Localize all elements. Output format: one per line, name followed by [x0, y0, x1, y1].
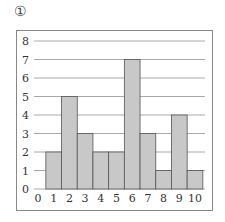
y-tick-label: 2	[22, 146, 29, 159]
histogram-chart: 012345678012345678910	[0, 0, 225, 222]
histogram-bar	[109, 152, 125, 189]
y-tick-label: 8	[22, 35, 29, 48]
x-tick-label: 7	[144, 192, 151, 205]
x-tick-label: 9	[176, 192, 183, 205]
histogram-bar	[62, 97, 78, 190]
histogram-bar	[156, 171, 172, 190]
y-tick-label: 1	[22, 165, 29, 178]
x-tick-label: 3	[82, 192, 89, 205]
histogram-bar	[171, 115, 187, 189]
x-tick-label: 5	[113, 192, 120, 205]
y-tick-label: 3	[22, 128, 29, 141]
histogram-bar	[140, 134, 156, 190]
histogram-bar	[124, 60, 140, 190]
histogram-bar	[46, 152, 62, 189]
x-tick-label: 8	[160, 192, 167, 205]
x-tick-label: 10	[188, 192, 202, 205]
x-tick-label: 1	[50, 192, 57, 205]
x-tick-label: 6	[129, 192, 136, 205]
y-tick-label: 5	[22, 91, 29, 104]
histogram-bar	[187, 171, 203, 190]
x-tick-label: 0	[35, 192, 42, 205]
y-tick-label: 7	[22, 54, 29, 67]
histogram-bar	[77, 134, 93, 190]
y-tick-label: 4	[22, 109, 29, 122]
y-tick-label: 0	[22, 183, 29, 196]
x-tick-label: 2	[66, 192, 73, 205]
y-tick-label: 6	[22, 72, 29, 85]
histogram-bar	[93, 152, 109, 189]
x-tick-label: 4	[97, 192, 104, 205]
